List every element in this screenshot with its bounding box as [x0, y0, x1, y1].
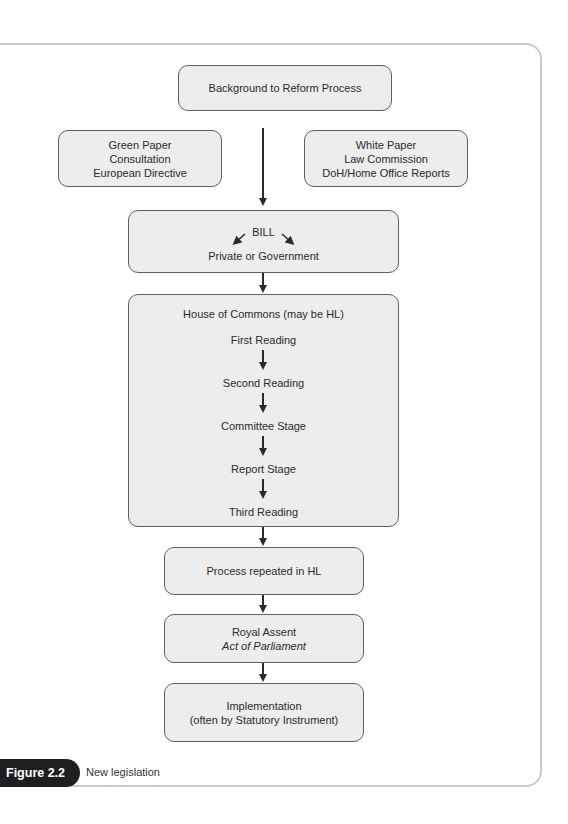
figure-caption: New legislation [86, 766, 160, 778]
stage-third-reading: Third Reading [129, 505, 398, 519]
implementation-box: Implementation (often by Statutory Instr… [164, 683, 364, 742]
stage-second-reading: Second Reading [129, 376, 398, 390]
royal-assent-title: Royal Assent [232, 625, 296, 639]
act-of-parliament-subtitle: Act of Parliament [222, 639, 306, 653]
stage-committee: Committee Stage [129, 419, 398, 433]
arrow-head-stage-4-icon [259, 491, 267, 499]
arrow-head-to-royal-assent-icon [259, 605, 267, 613]
arrow-head-hoc-to-hl-icon [259, 538, 267, 546]
implementation-title: Implementation [226, 699, 301, 713]
stage-report: Report Stage [129, 462, 398, 476]
process-repeated-box: Process repeated in HL [164, 547, 364, 595]
house-of-commons-box: House of Commons (may be HL) First Readi… [128, 294, 399, 527]
bill-arrow-right-icon [282, 234, 291, 242]
stage-first-reading: First Reading [129, 333, 398, 347]
arrow-head-to-implementation-icon [259, 674, 267, 682]
arrow-head-bill-to-hoc-icon [259, 285, 267, 293]
arrow-head-stage-2-icon [259, 405, 267, 413]
implementation-subtitle: (often by Statutory Instrument) [190, 713, 339, 727]
arrow-head-stage-1-icon [259, 362, 267, 370]
bill-arrow-left-icon [236, 234, 245, 242]
figure-number-badge: Figure 2.2 [0, 759, 80, 787]
hoc-title: House of Commons (may be HL) [129, 307, 398, 321]
royal-assent-box: Royal Assent Act of Parliament [164, 614, 364, 663]
process-repeated-label: Process repeated in HL [207, 564, 322, 578]
arrow-head-stage-3-icon [259, 448, 267, 456]
